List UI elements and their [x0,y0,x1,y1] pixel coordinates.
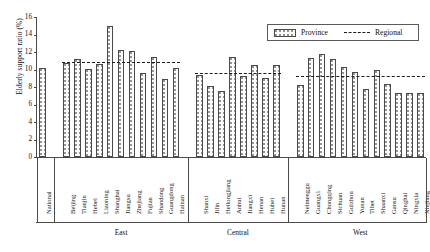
bar-sichuan [330,59,337,157]
bar-heilongjiang [218,91,225,157]
bar-guangxi [308,58,315,157]
bar-slot [105,17,116,157]
x-label-heilongjiang: Heilongjiang [224,180,231,214]
group-axis-line [36,222,426,223]
x-label-yunan: Yunan [358,197,365,214]
x-label-guangxi: Guangxi [314,191,321,214]
bar-national [39,68,46,157]
x-label-beijing: Beijing [69,195,76,214]
x-axis-line [36,157,426,158]
bar-jilin [207,86,214,157]
bar-ningxia [406,93,413,157]
bar-slot [127,17,138,157]
group-label-east: East [61,228,181,237]
y-tick-label: 16 [16,14,32,21]
bar-slot [170,17,181,157]
y-tick-label: 0 [16,154,32,161]
bar-guangdong [162,79,169,157]
y-tick-label: 8 [16,84,32,91]
y-tick-label: 6 [16,101,32,108]
bar-slot [159,17,170,157]
x-label-shanghai: Shanghai [113,189,120,214]
legend-province-label: Province [301,28,328,37]
bar-slot [148,17,159,157]
bar-beijing [63,63,70,158]
x-label-zhejiang: Zhejiang [135,191,142,214]
bar-henan [251,65,258,157]
x-label-shanxi: Shanxi [202,196,209,214]
bar-neimenggu [297,85,304,157]
y-tick-label: 2 [16,136,32,143]
x-label-qinghai: Qinghai [401,193,408,214]
regional-line-central [195,73,281,74]
bar-slot [116,17,127,157]
bar-slot [216,17,227,157]
bar-shandong [151,57,158,157]
y-tick-label: 12 [16,49,32,56]
bar-slot [205,17,216,157]
bar-slot [194,17,205,157]
x-label-hainan: Hainan [178,195,185,214]
group-separator [288,158,289,223]
x-label-anhui: Anhui [235,198,242,214]
x-label-henan: Henan [257,197,264,214]
bar-slot [94,17,105,157]
bar-fujian [140,73,147,157]
regional-line-west [296,76,425,77]
bar-jiangsu [118,50,125,157]
bar-tianjin [74,59,81,157]
bar-zhejiang [129,51,136,157]
bar-hainan [173,68,180,157]
bar-shaanxi [374,70,381,157]
x-label-neimenggu: Neimenggu [303,183,310,214]
x-label-tianjin: Tianjin [80,195,87,214]
x-label-jiangxi: Jiangxi [246,195,253,214]
x-label-hubei: Hubei [268,198,275,214]
bar-slot [61,17,72,157]
bar-hubei [262,78,269,157]
bar-xinjiang [417,93,424,157]
bar-tibet [363,89,370,157]
legend-regional-line [344,32,370,33]
bar-slot [249,17,260,157]
label-band-edge [37,158,38,223]
bar-slot [37,17,48,157]
x-label-fujian: Fujian [146,197,153,214]
regional-line-east [62,62,180,63]
bar-guizhou [341,67,348,157]
x-label-chongqing: Chongqing [325,185,332,214]
x-label-hebei: Hebei [91,198,98,214]
group-label-central: Central [194,228,282,237]
bar-slot [83,17,94,157]
x-label-ningxia: Ningxia [412,193,419,214]
bar-yunan [352,72,359,157]
group-separator [188,158,189,223]
bar-hunan [273,65,280,157]
bar-slot [72,17,83,157]
bar-gansu [384,84,391,157]
bar-qinghai [395,93,402,157]
bar-shanghai [107,26,114,157]
x-label-jiangsu: Jiangsu [124,194,131,214]
x-label-guizhou: Guizhou [347,191,354,214]
x-label-guangdong: Guangdong [167,183,174,214]
chart-legend: Province Regional [267,24,419,41]
y-tick-label: 14 [16,31,32,38]
x-label-shaanxi: Shaanxi [379,193,386,214]
x-label-tibet: Tibet [368,200,375,214]
legend-province-swatch [274,29,296,37]
bar-shanxi [196,75,203,157]
bar-hebei [85,69,92,157]
bar-chongqing [319,54,326,157]
x-label-national: National [45,191,52,214]
legend-regional-label: Regional [375,28,402,37]
bar-slot [238,17,249,157]
x-label-hunan: Hunan [279,196,286,214]
x-label-gansu: Gansu [390,197,397,214]
bar-slot [138,17,149,157]
x-label-sichuan: Sichuan [336,193,343,214]
y-tick-label: 10 [16,66,32,73]
label-band-edge [426,158,427,223]
x-label-jilin: Jilin [213,203,220,214]
